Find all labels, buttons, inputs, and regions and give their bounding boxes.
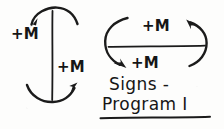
- left-arc-arrowhead: [114, 59, 127, 68]
- caption-line-1: Signs -: [109, 76, 169, 93]
- moment-label-left-lower: +M: [57, 60, 85, 75]
- hand-drawn-sign-convention-figure: +M +M +M +M Signs - Program I: [0, 0, 224, 129]
- left-curved-moment-arrow-arc: [105, 18, 127, 65]
- right-arc-arrowhead: [186, 20, 198, 30]
- moment-label-right-upper: +M: [142, 19, 170, 34]
- caption-line-2: Program I: [102, 96, 188, 113]
- moment-label-left-upper: +M: [11, 27, 39, 42]
- horizontal-member-line: [109, 46, 206, 47]
- moment-label-right-lower: +M: [131, 56, 159, 71]
- bottom-curved-moment-arrow-arc: [27, 85, 75, 102]
- top-curved-moment-arrow-arc: [32, 8, 78, 25]
- left-diagram-group: [27, 8, 78, 102]
- caption-underline: [101, 117, 211, 118]
- right-curved-moment-arrow-arc: [190, 23, 207, 67]
